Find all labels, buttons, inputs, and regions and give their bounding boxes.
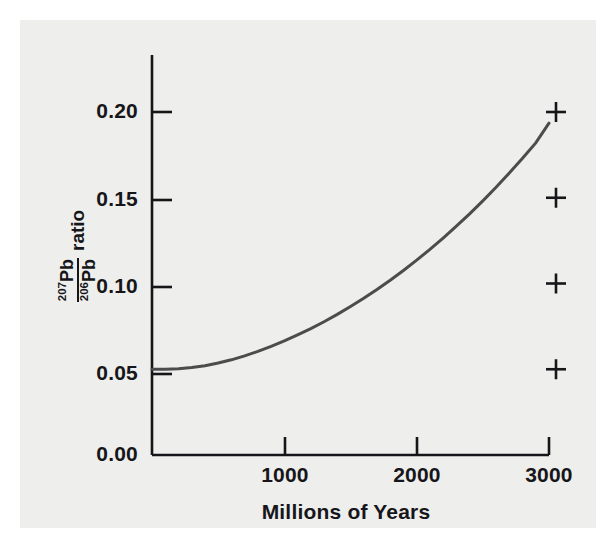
growth-curve [152, 123, 549, 369]
x-tick-label-1000: 1000 [240, 463, 330, 487]
y-tick-label-0-15: 0.15 [52, 187, 138, 211]
plus-marker [546, 359, 566, 379]
plus-marker [546, 274, 566, 294]
x-axis-title: Millions of Years [196, 500, 496, 524]
axis-spines [152, 55, 549, 455]
plus-marker [546, 102, 566, 122]
figure-container: 0.20 0.15 0.10 0.05 0.00 1000 2000 3000 … [0, 0, 616, 554]
y-tick-label-0-00: 0.00 [52, 442, 138, 466]
x-axis-ticks [285, 437, 549, 455]
x-tick-label-3000: 3000 [504, 463, 594, 487]
y-tick-label-0-20: 0.20 [52, 99, 138, 123]
y-axis-ticks [152, 112, 172, 374]
y-tick-label-0-10: 0.10 [52, 274, 138, 298]
x-tick-label-2000: 2000 [372, 463, 462, 487]
plus-markers [546, 102, 566, 379]
y-tick-label-0-05: 0.05 [52, 361, 138, 385]
plus-marker [546, 188, 566, 208]
